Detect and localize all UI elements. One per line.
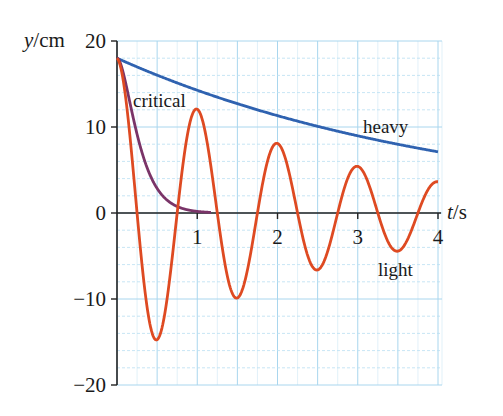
x-tick-label: 4 <box>433 225 444 249</box>
x-tick-label: 2 <box>272 225 283 249</box>
y-tick-label: 0 <box>96 201 107 225</box>
y-tick-label: −20 <box>73 373 106 397</box>
x-tick-label: 3 <box>353 225 364 249</box>
light-label: light <box>378 259 414 280</box>
y-axis-label: y/cm <box>22 28 65 52</box>
y-tick-label: 10 <box>85 115 106 139</box>
damping-chart: 20100−10−20 1234 y/cm t/s critical heavy… <box>0 0 503 416</box>
y-tick-label: −10 <box>73 287 106 311</box>
y-tick-label: 20 <box>85 29 106 53</box>
x-tick-label: 1 <box>192 225 203 249</box>
x-axis-label: t/s <box>447 200 467 224</box>
critical-label: critical <box>133 90 186 111</box>
heavy-label: heavy <box>363 116 409 137</box>
